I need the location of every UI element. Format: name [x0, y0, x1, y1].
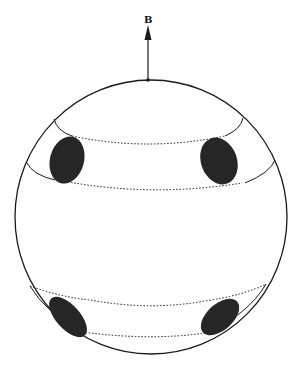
upper-band-bottom-ring-solid-right: [245, 160, 275, 183]
upper-band-top-ring-dotted: [72, 136, 225, 144]
upper-band-top-ring-front-solid-right: [225, 118, 243, 136]
upper-band-top-ring-back: [54, 107, 243, 119]
spot-lower-left: [42, 290, 93, 343]
lower-band-bottom-ring-dotted: [82, 332, 205, 337]
upper-band-top-ring-front-solid: [54, 119, 72, 136]
spot-upper-right: [194, 132, 244, 189]
magnetic-field-arrow-icon: [145, 25, 152, 82]
sphere-diagram: B: [0, 0, 296, 368]
field-label-b: B: [144, 14, 152, 25]
